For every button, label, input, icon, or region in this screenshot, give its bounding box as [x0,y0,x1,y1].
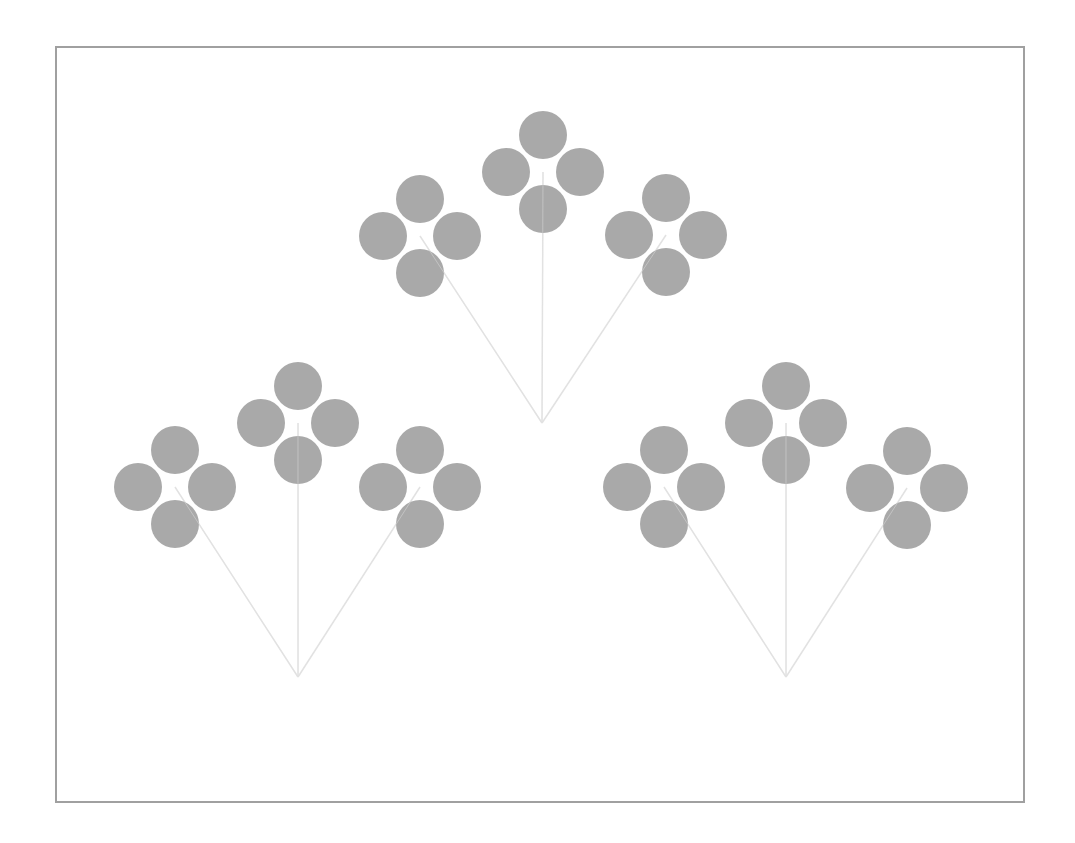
petal-circle [519,111,567,159]
petal-circle [640,426,688,474]
petal-circle [359,212,407,260]
petal-circle [920,464,968,512]
top-group-stems-overlay [420,172,666,423]
petal-circle [433,463,481,511]
stem-line [664,487,786,677]
petal-circle [642,174,690,222]
petal-circle [799,399,847,447]
petal-circle [151,500,199,548]
petal-circle [396,426,444,474]
petal-circle [151,426,199,474]
petal-circle [556,148,604,196]
petal-circle [603,463,651,511]
petal-circle [642,248,690,296]
petal-circle [725,399,773,447]
fractal-diagram [0,0,1075,843]
petal-circle [677,463,725,511]
petal-circle [883,501,931,549]
petal-circle [359,463,407,511]
petal-circle [640,500,688,548]
stem-line [175,487,298,677]
right-group-stems-overlay [664,423,907,677]
petal-circle [679,211,727,259]
stem-line [542,235,666,423]
diagram-frame [56,47,1024,802]
flowers-layer [114,111,968,549]
petal-circle [396,175,444,223]
petal-circle [433,212,481,260]
petal-circle [237,399,285,447]
petal-circle [311,399,359,447]
petal-circle [482,148,530,196]
petal-circle [396,249,444,297]
petal-circle [846,464,894,512]
left-group-stems-overlay [175,423,420,677]
petal-circle [188,463,236,511]
stem-line [420,236,542,423]
petal-circle [114,463,162,511]
petal-circle [605,211,653,259]
stem-line [298,487,420,677]
petal-circle [762,362,810,410]
petal-circle [274,362,322,410]
petal-circle [883,427,931,475]
petal-circle [396,500,444,548]
stem-line [786,488,907,677]
